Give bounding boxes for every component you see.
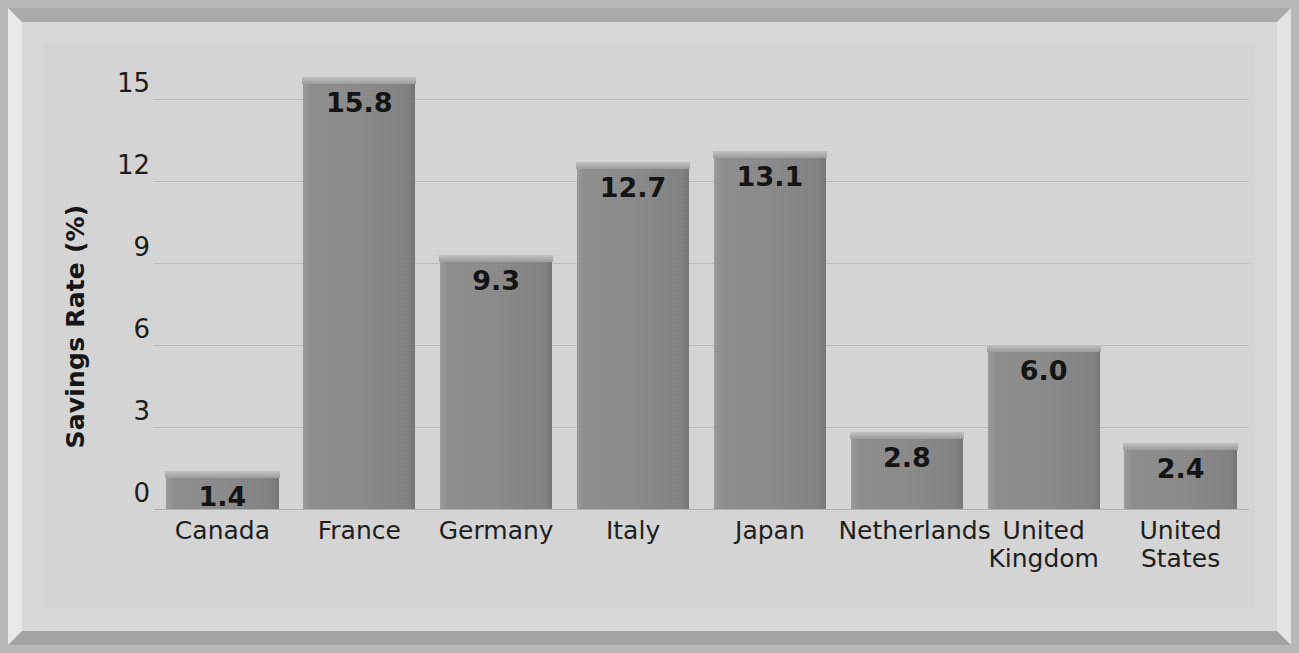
y-tick-label: 12 xyxy=(117,152,150,178)
bar-chart-figure: Savings Rate (%) 03691215 1.415.89.312.7… xyxy=(0,0,1299,653)
y-tick-label: 15 xyxy=(117,70,150,96)
bar-top-cap xyxy=(576,162,690,169)
x-tick-label: Canada xyxy=(154,517,291,545)
bar-value-label: 2.4 xyxy=(1124,455,1236,482)
bar[interactable]: 13.1 xyxy=(714,151,826,509)
bar[interactable]: 1.4 xyxy=(166,471,278,509)
y-tick-label: 6 xyxy=(133,316,150,342)
bar[interactable]: 2.8 xyxy=(851,432,963,509)
bar[interactable]: 9.3 xyxy=(440,255,552,509)
bar-top-cap xyxy=(987,345,1101,352)
y-axis-title-container: Savings Rate (%) xyxy=(54,44,98,609)
y-tick-label: 0 xyxy=(133,480,150,506)
figure-frame-bevel: Savings Rate (%) 03691215 1.415.89.312.7… xyxy=(8,8,1291,645)
bar[interactable]: 6.0 xyxy=(988,345,1100,509)
bar-value-label: 1.4 xyxy=(166,483,278,510)
bar-top-cap xyxy=(713,151,827,158)
bar-top-cap xyxy=(850,432,964,439)
x-tick-label: Japan xyxy=(702,517,839,545)
bar[interactable]: 15.8 xyxy=(303,77,415,509)
bar-value-label: 9.3 xyxy=(440,267,552,294)
bar-value-label: 2.8 xyxy=(851,444,963,471)
bar-top-cap xyxy=(1123,443,1237,450)
x-tick-label: United Kingdom xyxy=(975,517,1112,573)
bar-value-label: 13.1 xyxy=(714,163,826,190)
y-tick-label: 3 xyxy=(133,398,150,424)
x-tick-label: Italy xyxy=(565,517,702,545)
y-axis-title: Savings Rate (%) xyxy=(62,205,91,449)
bar-top-cap xyxy=(302,77,416,84)
x-tick-label: United States xyxy=(1112,517,1249,573)
bar[interactable]: 12.7 xyxy=(577,162,689,509)
bar-value-label: 12.7 xyxy=(577,174,689,201)
x-tick-label: Germany xyxy=(428,517,565,545)
plot-area: Savings Rate (%) 03691215 1.415.89.312.7… xyxy=(44,44,1255,609)
y-tick-label: 9 xyxy=(133,234,150,260)
x-tick-label: France xyxy=(291,517,428,545)
bar-top-cap xyxy=(439,255,553,262)
bar-value-label: 15.8 xyxy=(303,89,415,116)
bar-top-cap xyxy=(165,471,279,478)
bar-value-label: 6.0 xyxy=(988,357,1100,384)
y-axis-tick-labels: 03691215 xyxy=(98,44,154,609)
bar[interactable]: 2.4 xyxy=(1124,443,1236,509)
x-tick-label: Netherlands xyxy=(838,517,975,545)
